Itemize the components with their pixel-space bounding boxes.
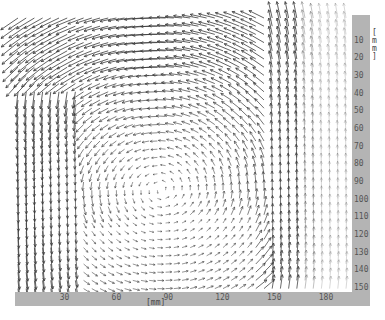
x-axis-title: [mm] (146, 298, 165, 307)
y-tick-label: 40 (354, 89, 364, 98)
y-tick-label: 10 (354, 36, 364, 45)
x-tick-label: 60 (112, 293, 122, 302)
y-tick-label: 140 (354, 265, 369, 274)
y-tick-label: 100 (354, 195, 369, 204)
y-tick-label: 80 (354, 159, 364, 168)
y-axis-title: [mm] (372, 28, 377, 61)
x-tick-label: 30 (60, 293, 70, 302)
y-tick-label: 70 (354, 142, 364, 151)
x-tick-label: 180 (319, 293, 334, 302)
x-tick-label: 120 (215, 293, 230, 302)
y-tick-label: 30 (354, 71, 364, 80)
y-tick-label: 130 (354, 248, 369, 257)
x-tick-label: 150 (267, 293, 282, 302)
y-tick-label: 120 (354, 230, 369, 239)
y-tick-label: 150 (354, 283, 369, 292)
y-axis-title-char: ] (372, 52, 377, 61)
vector-field-chart: 102030405060708090100110120130140150 306… (0, 0, 385, 320)
y-tick-label: 90 (354, 177, 364, 186)
y-tick-label: 110 (354, 212, 369, 221)
y-tick-label: 60 (354, 124, 364, 133)
y-tick-label: 20 (354, 53, 364, 62)
y-tick-label: 50 (354, 106, 364, 115)
